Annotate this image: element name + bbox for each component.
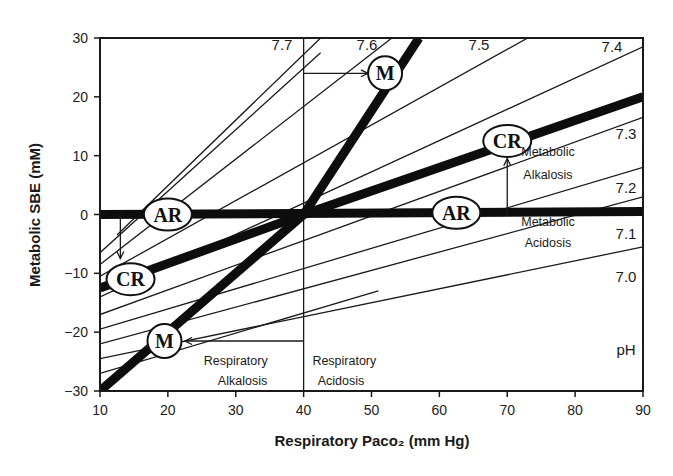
ph-label: 7.2 — [616, 179, 637, 196]
x-tick-label: 70 — [499, 402, 515, 418]
y-tick-label: −30 — [64, 383, 88, 399]
y-tick-label: 20 — [72, 89, 88, 105]
marker-label: AR — [442, 202, 471, 224]
marker-cr: CR — [107, 263, 155, 295]
x-tick-label: 90 — [635, 402, 651, 418]
y-axis-title: Metabolic SBE (mM) — [26, 143, 43, 287]
acid-base-chart: ARARCRCRMM MetabolicAlkalosisMetabolicAc… — [0, 0, 673, 476]
x-tick-label: 40 — [296, 402, 312, 418]
y-tick-label: −10 — [64, 265, 88, 281]
x-tick-label: 80 — [567, 402, 583, 418]
marker-m: M — [147, 324, 181, 358]
marker-label: M — [155, 330, 174, 352]
marker-m: M — [368, 56, 402, 90]
y-tick-label: 30 — [72, 30, 88, 46]
x-tick-label: 20 — [160, 402, 176, 418]
marker-ar: AR — [432, 197, 480, 229]
marker-label: AR — [153, 204, 182, 226]
x-tick-label: 50 — [364, 402, 380, 418]
marker-label: M — [376, 62, 395, 84]
marker-label: CR — [493, 130, 522, 152]
x-tick-label: 10 — [92, 402, 108, 418]
ph-label: 7.4 — [602, 38, 623, 55]
y-tick-label: 0 — [80, 207, 88, 223]
region-label: Metabolic — [521, 215, 575, 229]
region-label: Acidosis — [318, 374, 365, 388]
ph-label: 7.3 — [616, 125, 637, 142]
region-label: Respiratory — [204, 354, 269, 368]
region-label: Respiratory — [312, 354, 377, 368]
x-tick-label: 60 — [432, 402, 448, 418]
ph-label: pH — [616, 341, 635, 358]
region-label: Alkalosis — [523, 168, 572, 182]
region-label: Alkalosis — [218, 374, 267, 388]
x-axis-title: Respiratory Paco₂ (mm Hg) — [274, 432, 469, 449]
marker-ar: AR — [144, 199, 192, 231]
y-tick-label: −20 — [64, 324, 88, 340]
region-label: Acidosis — [525, 236, 572, 250]
x-tick-label: 30 — [228, 402, 244, 418]
y-tick-label: 10 — [72, 148, 88, 164]
ph-label: 7.1 — [616, 225, 637, 242]
ph-label: 7.0 — [616, 268, 637, 285]
marker-label: CR — [116, 268, 145, 290]
region-label: Metabolic — [521, 145, 575, 159]
